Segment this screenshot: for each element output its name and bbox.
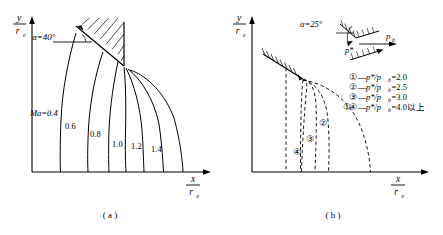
panel-b: y r e x r e [233, 13, 429, 220]
panel-b-inset: α=25° p* p b [300, 19, 397, 60]
panel-b-x-axis [252, 169, 429, 175]
panel-a-curve-ma-outer [130, 70, 183, 172]
legend-text-4: p*/p [365, 102, 381, 112]
panel-a-x-axis-label: x r e [186, 174, 200, 199]
legend-marker-1: ① [349, 72, 357, 82]
panel-b-wall [262, 48, 303, 81]
legend-value-2: =2.5 [392, 82, 407, 92]
legend-item-4: ④ — p*/p b =4.0以上 [349, 102, 425, 113]
panel-b-y-axis [249, 16, 255, 172]
legend-text-1: p*/p [365, 72, 381, 82]
panel-a-curve-ma-0-4 [60, 33, 76, 172]
panel-a-mach-curves [60, 33, 183, 172]
legend-marker-2: ② [349, 82, 357, 92]
svg-text:③: ③ [306, 134, 314, 144]
legend-value-4: =4.0以上 [392, 102, 425, 112]
panel-b-curve-markers: ① ② ③ ④ [293, 102, 351, 157]
panel-b-inset-plate-right [356, 31, 379, 38]
figure-root: y r e x r e [0, 0, 443, 235]
panel-b-inset-pb-subscript: b [392, 37, 395, 43]
panel-a-curve-ma-0-6 [88, 52, 103, 172]
panel-b-y-subscript: e [243, 32, 246, 38]
svg-text:②: ② [319, 118, 327, 128]
panel-b-x-denominator: r [394, 187, 398, 197]
legend-value-3: =3.0 [392, 92, 407, 102]
panel-b-wall-arrowhead [298, 74, 304, 81]
panel-a-x-subscript: e [197, 193, 200, 199]
panel-a-curve-ma-1-0 [124, 67, 126, 172]
panel-b-inset-hatching-lower [351, 46, 375, 59]
panel-b-inset-pb-label: p [385, 31, 391, 41]
panel-a-wedge: α=40° [32, 18, 124, 66]
panel-b-inset-hatching-upper [341, 20, 355, 37]
panel-a-label-ma-1-4: 1.4 [151, 144, 162, 154]
panel-b-inset-angle-label: α=25° [300, 19, 323, 29]
panel-a-angle-label: α=40° [32, 32, 56, 42]
panel-a-x-axis [32, 169, 211, 175]
panel-b-legend: ① — p*/p b =2.0 ② — p*/p b =2.5 ③ — p*/p… [349, 72, 425, 113]
panel-b-inset-plate-lower [350, 50, 382, 60]
panel-a-label-ma-0-4: Ma=0.4 [29, 108, 58, 118]
legend-text-3: p*/p [365, 92, 381, 102]
panel-b-caption: ( b ) [326, 210, 341, 220]
panel-a-label-ma-0-8: 0.8 [90, 129, 101, 139]
panel-a: y r e x r e [13, 13, 211, 220]
panel-b-inset-plate-upper [340, 24, 356, 38]
panel-b-x-axis-label: x r e [391, 174, 405, 199]
panel-a-y-subscript: e [23, 32, 26, 38]
panel-a-label-ma-1-2: 1.2 [131, 141, 142, 151]
legend-value-1: =2.0 [392, 72, 407, 82]
panel-a-wedge-hatching [82, 18, 124, 61]
panel-a-y-axis-label: y r e [13, 13, 26, 38]
panel-a-y-denominator: r [16, 26, 20, 36]
panel-b-marker-3: ③ [306, 134, 314, 144]
panel-a-label-ma-1-0: 1.0 [112, 139, 123, 149]
panel-b-x-subscript: e [402, 193, 405, 199]
legend-marker-3: ③ [349, 92, 357, 102]
legend-marker-4: ④ [349, 102, 357, 112]
panel-b-x-numerator: x [395, 174, 401, 184]
panel-a-label-ma-0-6: 0.6 [65, 121, 76, 131]
panel-a-y-numerator: y [16, 13, 22, 23]
panel-b-curve-3 [303, 80, 316, 172]
panel-b-y-denominator: r [236, 26, 240, 36]
panel-b-y-numerator: y [236, 13, 242, 23]
panel-b-inset-pstar-label: p* [344, 45, 354, 55]
panel-b-y-axis-label: y r e [233, 13, 246, 38]
legend-text-2: p*/p [365, 82, 381, 92]
panel-a-caption: ( a ) [103, 210, 118, 220]
panel-b-marker-4: ④ [293, 147, 301, 157]
svg-text:④: ④ [293, 147, 301, 157]
panel-a-x-denominator: r [189, 187, 193, 197]
panel-b-marker-2: ② [319, 118, 327, 128]
panel-a-angle-arc [83, 35, 87, 43]
panel-a-curve-ma-0-8 [109, 62, 118, 172]
panel-b-wall-hatching [262, 48, 297, 75]
panel-a-x-numerator: x [190, 174, 196, 184]
